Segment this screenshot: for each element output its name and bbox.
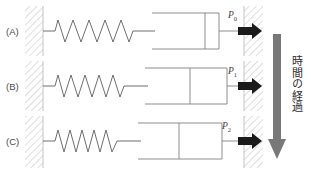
dashpot-cylinder-a <box>152 13 219 49</box>
left-wall-group <box>25 6 43 168</box>
spring-a <box>43 20 155 42</box>
force-label-a: P0 <box>227 10 237 22</box>
time-arrow-head <box>268 139 286 159</box>
spring-c <box>43 130 141 152</box>
diagram-canvas: (A) P0 (B) P1 (C) P2 <box>0 0 311 175</box>
row-label-b: (B) <box>6 81 19 92</box>
row-c: (C) P2 <box>6 121 262 159</box>
left-wall-row-c <box>25 116 43 168</box>
row-a: (A) P0 <box>6 10 262 49</box>
left-wall-row-a <box>25 6 43 56</box>
row-label-c: (C) <box>6 136 19 147</box>
time-arrow <box>268 34 286 159</box>
viscoelastic-model-svg: (A) P0 (B) P1 (C) P2 <box>0 0 311 175</box>
dashpot-cylinder-c <box>138 123 222 159</box>
left-wall-row-b <box>25 61 43 111</box>
time-axis-label: 時間の経過 <box>290 55 302 113</box>
row-b: (B) P1 <box>6 66 262 104</box>
row-label-a: (A) <box>6 26 19 37</box>
force-label-c: P2 <box>221 121 231 133</box>
time-arrow-shaft <box>273 34 281 141</box>
force-label-b: P1 <box>227 66 237 78</box>
spring-b <box>43 75 148 97</box>
dashpot-cylinder-b <box>145 68 227 104</box>
